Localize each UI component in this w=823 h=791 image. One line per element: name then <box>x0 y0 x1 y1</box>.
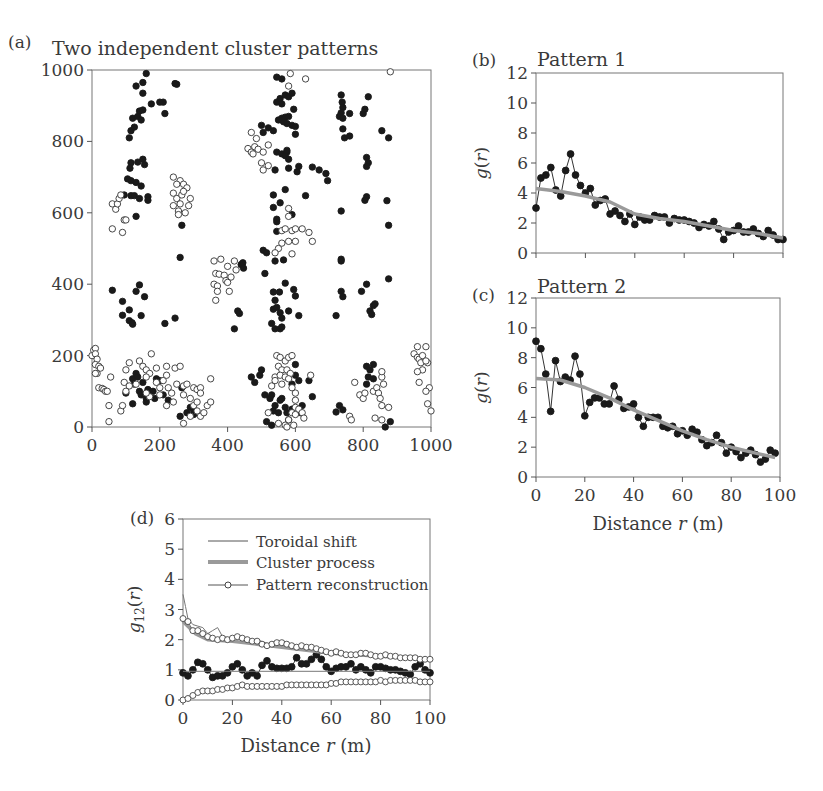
point-pattern-1 <box>291 106 297 112</box>
panel-a-label: (a) <box>8 32 31 52</box>
point-pattern-2 <box>107 374 113 380</box>
point-pattern-1 <box>277 200 283 206</box>
point-pattern-2 <box>224 279 230 285</box>
point-pattern-1 <box>346 110 352 116</box>
point-pattern-1 <box>372 301 378 307</box>
point-pattern-1 <box>316 167 322 173</box>
point-pattern-2 <box>380 381 386 387</box>
point-pattern-2 <box>185 202 191 208</box>
data-point <box>562 167 569 174</box>
point-pattern-1 <box>274 219 280 225</box>
point-pattern-1 <box>384 197 390 203</box>
point-pattern-2 <box>109 226 115 232</box>
point-pattern-1 <box>272 402 278 408</box>
point-pattern-1 <box>268 422 274 428</box>
data-point <box>293 654 300 661</box>
point-pattern-2 <box>285 238 291 244</box>
panel-c: (c) Pattern 2 024681012020406080100g(r) … <box>471 275 796 534</box>
point-pattern-2 <box>104 388 110 394</box>
y-axis-label: g(r) <box>471 147 491 179</box>
point-pattern-1 <box>280 119 286 125</box>
y-tick-label: 5 <box>164 539 175 559</box>
point-pattern-1 <box>363 381 369 387</box>
panel-d-xlabel: Distance r (m) <box>241 735 372 756</box>
point-pattern-1 <box>338 92 344 98</box>
point-pattern-1 <box>362 197 368 203</box>
x-tick-label: 600 <box>279 435 311 455</box>
point-pattern-2 <box>119 229 125 235</box>
panel-b-title: Pattern 1 <box>537 48 626 70</box>
point-pattern-2 <box>180 420 186 426</box>
point-pattern-1 <box>338 258 344 264</box>
point-pattern-1 <box>296 312 302 318</box>
x-tick-label: 20 <box>574 485 596 505</box>
point-pattern-2 <box>272 377 278 383</box>
point-pattern-1 <box>126 307 132 313</box>
panel-c-title: Pattern 2 <box>537 275 626 297</box>
point-pattern-2 <box>211 258 217 264</box>
point-pattern-1 <box>129 321 135 327</box>
x-tick-label: 40 <box>623 485 645 505</box>
point-pattern-1 <box>138 183 144 189</box>
y-tick-label: 600 <box>52 203 84 223</box>
data-point <box>710 218 717 225</box>
data-point <box>547 408 554 415</box>
data-point <box>185 619 191 625</box>
point-pattern-2 <box>423 388 429 394</box>
point-pattern-2 <box>170 399 176 405</box>
panel-b: (b) Pattern 1 024681012g(r) <box>471 48 786 263</box>
point-pattern-2 <box>153 365 159 371</box>
data-point <box>407 671 414 678</box>
data-point <box>427 669 434 676</box>
point-pattern-1 <box>141 293 147 299</box>
point-pattern-1 <box>272 167 278 173</box>
point-pattern-2 <box>148 351 154 357</box>
data-point <box>427 656 433 662</box>
point-pattern-1 <box>385 135 391 141</box>
panel-c-label: (c) <box>472 285 495 305</box>
point-pattern-2 <box>301 415 307 421</box>
data-point <box>617 212 624 219</box>
point-pattern-1 <box>284 147 290 153</box>
data-point <box>587 185 594 192</box>
point-pattern-2 <box>292 397 298 403</box>
point-pattern-1 <box>136 282 142 288</box>
point-pattern-1 <box>143 70 149 76</box>
panel-b-label: (b) <box>472 50 496 70</box>
x-tick-label: 40 <box>271 708 293 728</box>
data-point <box>537 345 544 352</box>
point-pattern-2 <box>285 205 291 211</box>
x-tick-label: 400 <box>211 435 243 455</box>
point-pattern-2 <box>187 395 193 401</box>
data-point <box>239 666 246 673</box>
x-tick-label: 1000 <box>409 435 452 455</box>
point-pattern-1 <box>282 186 288 192</box>
data-point <box>264 657 271 664</box>
data-point <box>720 236 727 243</box>
series-line <box>536 341 775 462</box>
point-pattern-2 <box>174 381 180 387</box>
figure: (a) Two independent cluster patterns 020… <box>0 0 823 791</box>
x-tick-label: 200 <box>144 435 176 455</box>
point-pattern-2 <box>385 404 391 410</box>
point-pattern-1 <box>231 326 237 332</box>
point-pattern-1 <box>280 257 286 263</box>
point-pattern-1 <box>292 361 298 367</box>
point-pattern-2 <box>285 213 291 219</box>
point-pattern-1 <box>285 308 291 314</box>
point-pattern-1 <box>279 395 285 401</box>
point-pattern-2 <box>174 181 180 187</box>
point-pattern-2 <box>92 370 98 376</box>
point-pattern-1 <box>270 127 276 133</box>
point-pattern-1 <box>172 315 178 321</box>
point-pattern-2 <box>119 402 125 408</box>
y-tick-label: 4 <box>164 569 175 589</box>
y-axis-label: g12(r) <box>124 586 147 634</box>
point-pattern-2 <box>126 383 132 389</box>
point-pattern-1 <box>263 250 269 256</box>
point-pattern-2 <box>170 202 176 208</box>
x-tick-label: 100 <box>764 485 796 505</box>
point-pattern-2 <box>265 162 271 168</box>
point-pattern-1 <box>358 288 364 294</box>
data-point <box>547 164 554 171</box>
